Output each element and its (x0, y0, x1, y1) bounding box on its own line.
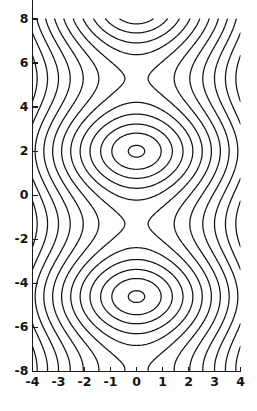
contour-line (80, 102, 193, 200)
contour-line (203, 19, 229, 372)
x-tick-label: 2 (184, 374, 193, 389)
contour-line (112, 279, 161, 315)
y-tick-label: 8 (20, 11, 29, 26)
plot-canvas: -4-3-2-101234-8-6-4-202468 (0, 0, 257, 411)
contour-line (174, 19, 211, 372)
contour-line (236, 346, 241, 371)
y-tick-label: -2 (15, 231, 29, 246)
contour-line (94, 19, 180, 43)
contour-line (236, 201, 241, 247)
contour-line (120, 19, 153, 24)
contour-line (236, 56, 241, 102)
contour-line (33, 178, 48, 269)
x-tick-label: 3 (210, 374, 219, 389)
x-tick-label: 0 (132, 374, 141, 389)
contour-line (90, 260, 183, 334)
contour-line (128, 291, 144, 303)
y-tick-label: 2 (20, 143, 29, 158)
contour-line (90, 114, 183, 188)
contour-plot-figure: -4-3-2-101234-8-6-4-202468 (0, 0, 257, 411)
y-tick-label: -6 (15, 319, 29, 334)
contour-line (106, 19, 168, 33)
y-tick-label: 0 (20, 187, 29, 202)
y-tick-label: -8 (15, 363, 29, 378)
x-tick-label: -2 (78, 374, 92, 389)
x-tick-label: -3 (52, 374, 66, 389)
contour-line (112, 133, 161, 169)
x-tick-label: 1 (158, 374, 167, 389)
contour-line (62, 19, 99, 372)
contour-line (225, 33, 240, 124)
contour-line (128, 145, 144, 157)
contour-line (44, 19, 70, 372)
contour-line (80, 248, 193, 346)
y-tick-label: -4 (15, 275, 29, 290)
y-tick-label: 4 (20, 99, 29, 114)
y-tick-label: 6 (20, 55, 29, 70)
x-tick-label: 4 (236, 374, 245, 389)
contour-lines-group (33, 19, 241, 372)
x-tick-label: -1 (104, 374, 118, 389)
contour-line (33, 33, 48, 124)
contour-line (225, 178, 240, 269)
